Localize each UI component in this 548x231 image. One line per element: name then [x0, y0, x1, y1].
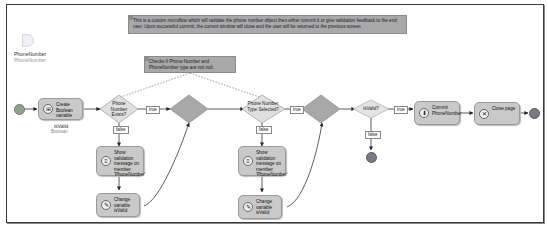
activity-change-variable-2[interactable]: ✎ Change variable isValid: [238, 195, 282, 219]
flow-label-true-2: true: [290, 106, 304, 114]
activity-change-variable-1[interactable]: ✎ Change variable isValid: [96, 193, 140, 217]
activity-show-validation-1[interactable]: ≡ Show validation message on member 'Pho…: [96, 146, 144, 176]
change-variable-icon: ✎: [243, 202, 253, 212]
start-event[interactable]: [14, 104, 25, 115]
flow-label-false-2: false: [256, 126, 272, 134]
activity-show-validation-2[interactable]: ≡ Show validation message on member 'Pho…: [238, 146, 286, 176]
validation-message-icon: ≡: [243, 156, 253, 166]
annotation-null-check: Checks if Phone Number and PhoneNumber t…: [144, 56, 236, 73]
parameter-type: PhoneNumber: [14, 57, 46, 63]
merge-2: [302, 95, 340, 123]
end-event-false[interactable]: [366, 152, 377, 163]
decision-label-3: isValid?: [356, 106, 386, 112]
create-variable-icon: ⊞: [43, 104, 53, 114]
annotation-description: This is a custom microflow which will va…: [128, 15, 407, 34]
change-variable-icon: ✎: [101, 200, 111, 210]
merge-1: [170, 95, 208, 123]
activity-create-variable[interactable]: ⊞ Create Boolean variable: [38, 98, 83, 120]
decision-label-2: Phone Number Type Selected?: [246, 101, 280, 112]
flow-label-false-1: false: [113, 126, 129, 134]
commit-icon: ⬇: [419, 108, 429, 118]
activity-close-page[interactable]: ✕ Close page: [474, 102, 520, 125]
flow-label-true-3: true: [394, 106, 408, 114]
validation-message-icon: ≡: [101, 156, 111, 166]
flow-label-true-1: true: [146, 106, 160, 114]
decision-label-1: Phone Number Exists?: [104, 101, 134, 118]
variable-type: Boolean: [51, 129, 68, 134]
activity-commit[interactable]: ⬇ Commit PhoneNumber: [414, 101, 460, 125]
close-page-icon: ✕: [479, 109, 489, 119]
end-event[interactable]: [529, 108, 540, 119]
flow-label-false-3: false: [365, 131, 381, 139]
